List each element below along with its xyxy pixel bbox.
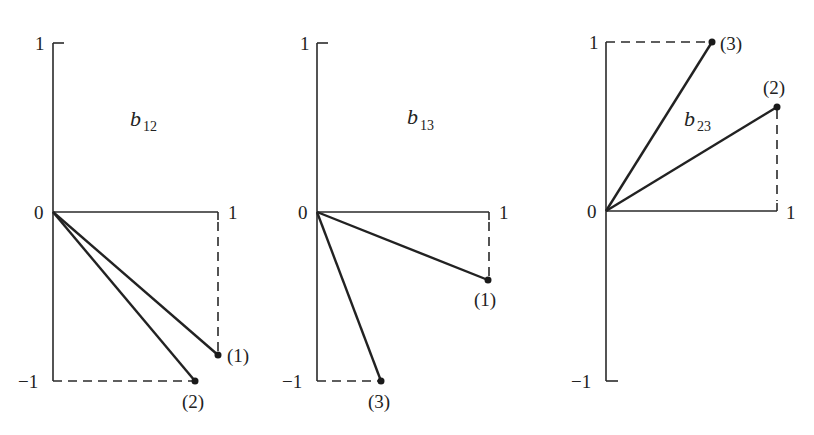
loading-vector-3 — [317, 212, 381, 381]
data-point-1 — [485, 277, 492, 284]
panel-title: b — [684, 106, 695, 131]
panel-b13: 1 0 −1 1 (1) (3) b 13 — [282, 33, 509, 413]
y-tick-top: 1 — [35, 33, 45, 54]
point-label-3: (3) — [720, 33, 742, 55]
data-point-3 — [378, 378, 385, 385]
data-point-2 — [774, 104, 781, 111]
y-tick-top: 1 — [300, 33, 310, 54]
x-tick-right: 1 — [499, 202, 509, 223]
panel-title: b — [407, 104, 418, 129]
panel-b12: 1 0 −1 1 (1) (2) b 12 — [18, 33, 249, 413]
panel-title-subscript: 23 — [697, 119, 711, 134]
data-point-2 — [192, 378, 199, 385]
y-tick-bottom: −1 — [571, 371, 591, 392]
y-tick-zero: 0 — [298, 202, 308, 223]
y-tick-zero: 0 — [587, 201, 597, 222]
panel-b23: 1 0 −1 1 (3) (2) b 23 — [571, 32, 796, 392]
y-tick-zero: 0 — [34, 202, 44, 223]
panel-title: b — [130, 106, 141, 131]
panel-title-subscript: 12 — [143, 119, 157, 134]
data-point-1 — [215, 352, 222, 359]
loading-plots-figure: 1 0 −1 1 (1) (2) b 12 1 0 −1 1 (1) (3) b… — [0, 0, 814, 435]
x-tick-right: 1 — [786, 202, 796, 223]
loading-vector-2 — [53, 212, 195, 381]
y-tick-bottom: −1 — [282, 371, 302, 392]
loading-vector-1 — [53, 212, 218, 355]
point-label-1: (1) — [474, 289, 496, 311]
point-label-2: (2) — [763, 77, 785, 99]
point-label-2: (2) — [182, 391, 204, 413]
x-tick-right: 1 — [228, 202, 238, 223]
loading-vector-1 — [317, 212, 488, 280]
point-label-3: (3) — [368, 391, 390, 413]
data-point-3 — [709, 39, 716, 46]
y-tick-bottom: −1 — [18, 371, 38, 392]
y-tick-top: 1 — [589, 32, 599, 53]
panel-title-subscript: 13 — [420, 118, 434, 133]
point-label-1: (1) — [227, 345, 249, 367]
